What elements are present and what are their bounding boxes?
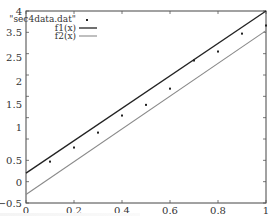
- y-label: 2: [16, 76, 22, 87]
- legend: "sec4data.dat" f1(x) f2(x): [9, 14, 97, 41]
- x-label: 0.8: [210, 205, 226, 216]
- legend-point-marker: [86, 19, 88, 21]
- x-label: 0.6: [162, 205, 178, 216]
- y-label: 1: [16, 122, 22, 133]
- data-point: [241, 33, 243, 35]
- cropped-caption: [0, 213, 140, 216]
- data-point: [265, 25, 267, 27]
- data-point: [49, 161, 51, 163]
- y-label: 1.5: [6, 99, 22, 110]
- chart: 4 3.5 2.5 2 1.5 1 0.5 0 −0.5 0 0.2 0.4 0…: [0, 0, 272, 219]
- data-point: [73, 147, 75, 149]
- y-label: 2.5: [6, 52, 22, 63]
- data-point: [217, 51, 219, 53]
- data-point: [121, 115, 123, 117]
- y-label: 0.5: [6, 155, 22, 166]
- y-label: −0.5: [0, 198, 22, 209]
- y-label: 3.5: [6, 27, 22, 38]
- data-point: [97, 132, 99, 134]
- legend-label-f2: f2(x): [55, 31, 76, 41]
- data-point: [169, 88, 171, 90]
- data-point: [145, 104, 147, 106]
- y-axis-labels: 4 3.5 2.5 2 1.5 1 0.5 0 −0.5: [0, 6, 22, 209]
- x-label: 1: [263, 205, 269, 216]
- series-f2-line: [26, 31, 266, 195]
- y-label: 0: [16, 177, 22, 188]
